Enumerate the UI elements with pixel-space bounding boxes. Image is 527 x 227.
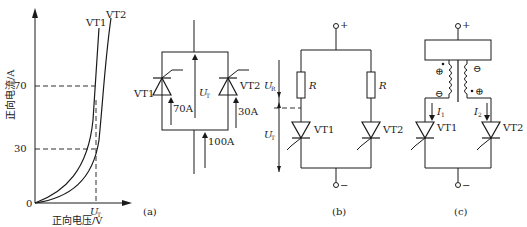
current-i1-sub: 1 — [441, 111, 445, 118]
resistor-right — [367, 72, 375, 98]
y-axis-label: 正向电流/A — [4, 69, 16, 120]
terminal-minus — [334, 183, 339, 188]
caption-c: (c) — [454, 206, 468, 217]
caption-b: (b) — [332, 206, 346, 217]
top-bus — [425, 40, 491, 60]
curve-vt1 — [35, 28, 99, 203]
label-vt2: VT2 — [502, 122, 523, 133]
coil-right — [465, 64, 468, 94]
voltage-ut-sub: T — [271, 134, 275, 141]
current-i2-sub: 2 — [478, 111, 482, 118]
caption-a: (a) — [143, 206, 157, 217]
terminal-plus — [334, 24, 339, 29]
dot-left — [442, 63, 445, 66]
current-100a: 100A — [208, 136, 235, 147]
label-vt1: VT1 — [85, 17, 106, 28]
polarity-right-bottom: ⊕ — [475, 86, 483, 97]
tick-30: 30 — [14, 143, 27, 154]
voltage-ur-sub: R — [271, 85, 276, 92]
x-axis-label: 正向电压/V — [52, 214, 103, 226]
current-30a: 30A — [238, 106, 259, 117]
circuit-a: VT1 70A U T VT2 30A 100A (a) — [133, 20, 260, 217]
label-vt1: VT1 — [313, 124, 334, 135]
terminal-plus — [456, 24, 461, 29]
y-axis-arrow-icon — [32, 8, 38, 18]
circuit-c: + ⊕ ⊖ ⊖ ⊕ I 1 I 2 — [411, 19, 523, 217]
label-vt1: VT1 — [436, 122, 457, 133]
label-vt2: VT2 — [382, 124, 403, 135]
thyristor-vt1 — [411, 122, 434, 150]
resistor-left-label: R — [308, 80, 317, 91]
curve-vt2 — [35, 18, 111, 203]
thyristor-vt2 — [477, 122, 500, 150]
dot-right — [471, 90, 474, 93]
thyristor-parallel-diagram: VT1 VT2 70 30 0 U T 正向电压/V 正向电流/A VT1 70… — [0, 0, 527, 227]
polarity-left-bottom: ⊖ — [435, 88, 443, 99]
terminal-plus-label: + — [340, 19, 348, 30]
thyristor-vt1 — [287, 122, 310, 150]
voltage-ut-sub: T — [206, 92, 210, 99]
resistor-left — [297, 72, 305, 98]
resistor-right-label: R — [378, 80, 387, 91]
terminal-plus-label: + — [462, 19, 470, 30]
origin-label: 0 — [26, 198, 32, 209]
label-vt1: VT1 — [133, 88, 154, 99]
iv-characteristic-graph: VT1 VT2 70 30 0 U T 正向电压/V 正向电流/A — [4, 8, 132, 226]
thyristor-vt1 — [153, 70, 183, 95]
current-70a: 70A — [173, 103, 194, 114]
label-vt2: VT2 — [239, 80, 260, 91]
terminal-minus — [456, 183, 461, 188]
polarity-right-top: ⊖ — [473, 63, 481, 74]
terminal-minus-label: − — [462, 180, 470, 191]
polarity-left-top: ⊕ — [435, 66, 443, 77]
terminal-minus-label: − — [340, 180, 348, 191]
circuit-b: + R R VT1 VT2 − — [264, 19, 403, 217]
thyristor-vt2 — [357, 122, 380, 150]
coil-left — [449, 64, 452, 94]
x-axis-arrow-icon — [122, 200, 132, 206]
label-vt2: VT2 — [105, 9, 126, 20]
